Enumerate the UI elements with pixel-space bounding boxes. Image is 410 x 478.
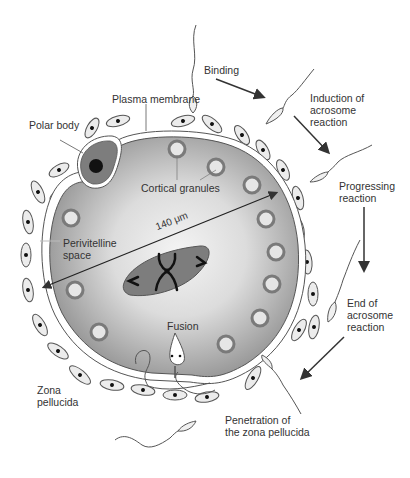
label-perivitelline: Perivitelline space (63, 237, 117, 261)
label-end-of-acrosome: End of acrosome reaction (347, 297, 393, 333)
label-plasma-membrane: Plasma membrane (112, 93, 200, 105)
label-induction: Induction of acrosome reaction (310, 92, 364, 128)
sperm-penetration (262, 355, 301, 414)
label-penetration: Penetration of the zona pellucida (225, 414, 310, 438)
sperm-progressing (310, 145, 372, 182)
label-binding: Binding (204, 64, 239, 76)
sperm-free (115, 421, 196, 447)
label-cortical-granules: Cortical granules (141, 182, 220, 194)
fertilization-diagram: Binding Plasma membrane Polar body Induc… (0, 0, 410, 478)
label-polar-body: Polar body (29, 119, 79, 131)
label-fusion: Fusion (167, 320, 199, 332)
polar-body-leader (60, 140, 83, 153)
label-progressing: Progressing reaction (339, 180, 395, 204)
sperm-induction (266, 69, 314, 124)
polar-body-nucleus (89, 159, 103, 173)
label-zona-pellucida: Zona pellucida (37, 384, 78, 408)
